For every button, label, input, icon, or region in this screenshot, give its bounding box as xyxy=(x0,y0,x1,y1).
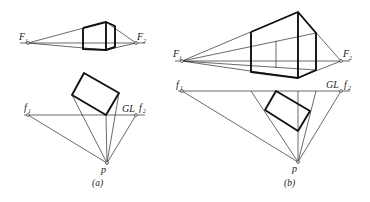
vanishing-line xyxy=(182,61,316,70)
label-GL: GL xyxy=(122,103,135,114)
vanishing-point-f2-marker xyxy=(340,60,343,63)
label-p: p xyxy=(100,164,106,175)
station-point-marker xyxy=(297,161,300,164)
point-f1-marker xyxy=(27,114,30,117)
plan-rectangle xyxy=(265,91,310,131)
sight-line xyxy=(298,91,341,162)
station-point-marker xyxy=(106,162,109,165)
label-f1-sub: 1 xyxy=(180,85,183,91)
box-outline xyxy=(83,22,115,50)
sight-line xyxy=(182,91,298,162)
vanishing-line xyxy=(182,33,316,61)
vanishing-point-f2-marker xyxy=(135,42,138,45)
label-p: p xyxy=(291,163,297,174)
point-f2-marker xyxy=(340,90,343,93)
perspective-diagram: F 1 F 2 f 1 GL f 2 p (a) xyxy=(0,0,370,202)
caption-a: (a) xyxy=(92,178,103,189)
label-GL: GL xyxy=(326,79,339,90)
label-F2-sub: 2 xyxy=(143,38,146,44)
panel-b: F 1 F 2 f 1 GL f 2 p (b) xyxy=(172,12,352,189)
panel-a: F 1 F 2 f 1 GL f 2 p (a) xyxy=(18,22,146,189)
label-F1-sub: 1 xyxy=(179,55,182,61)
label-F2-sub: 2 xyxy=(349,55,352,61)
caption-b: (b) xyxy=(284,178,295,189)
vanishing-line xyxy=(106,22,136,43)
sight-line xyxy=(28,115,107,163)
label-f2-sub: 2 xyxy=(143,108,146,114)
point-f2-marker xyxy=(135,114,138,117)
label-f2-sub: 2 xyxy=(348,85,351,91)
label-f1-sub: 1 xyxy=(28,108,31,114)
sight-line xyxy=(106,115,107,163)
label-F1-sub: 1 xyxy=(25,38,28,44)
